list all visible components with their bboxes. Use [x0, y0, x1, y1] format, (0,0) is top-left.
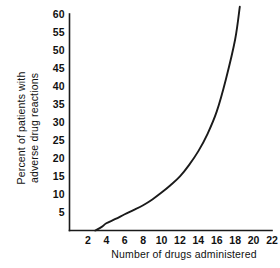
y-tick-label: 60: [53, 8, 65, 20]
y-tick-label: 55: [53, 26, 65, 38]
x-tick-label: 20: [248, 234, 260, 246]
y-tick-label: 45: [53, 62, 65, 74]
x-tick-label: 6: [122, 234, 128, 246]
x-tick-label: 4: [103, 234, 109, 246]
y-tick-label: 15: [53, 170, 65, 182]
x-tick-label: 16: [211, 234, 223, 246]
adverse-reaction-curve: [95, 7, 240, 231]
axes-group: [70, 14, 273, 231]
y-tick-label: 10: [53, 188, 65, 200]
chart-figure: 51015202530354045505560 2468101214161820…: [0, 0, 280, 268]
x-tick-label: 8: [140, 234, 146, 246]
y-tick-label: 35: [53, 98, 65, 110]
x-axis-title: Number of drugs administered: [111, 248, 256, 260]
y-tick-label: 40: [53, 80, 65, 92]
x-tick-label: 18: [229, 234, 241, 246]
y-axis-tick-labels: 51015202530354045505560: [53, 8, 65, 218]
x-tick-label: 14: [193, 234, 205, 246]
y-tick-label: 25: [53, 134, 65, 146]
x-tick-label: 12: [174, 234, 186, 246]
y-axis-title-line2: adverse drug reactions: [28, 73, 40, 183]
x-axis-tick-labels: 246810121416182022: [85, 234, 278, 246]
y-axis-title: Percent of patients with adverse drug re…: [15, 72, 40, 185]
chart-canvas: 51015202530354045505560 2468101214161820…: [0, 0, 280, 268]
x-tick-label: 22: [266, 234, 278, 246]
y-tick-label: 20: [53, 152, 65, 164]
x-tick-label: 2: [85, 234, 91, 246]
y-tick-label: 5: [59, 206, 65, 218]
y-axis-title-line1: Percent of patients with: [15, 72, 27, 185]
y-tick-label: 50: [53, 44, 65, 56]
x-tick-label: 10: [156, 234, 168, 246]
y-tick-label: 30: [53, 116, 65, 128]
